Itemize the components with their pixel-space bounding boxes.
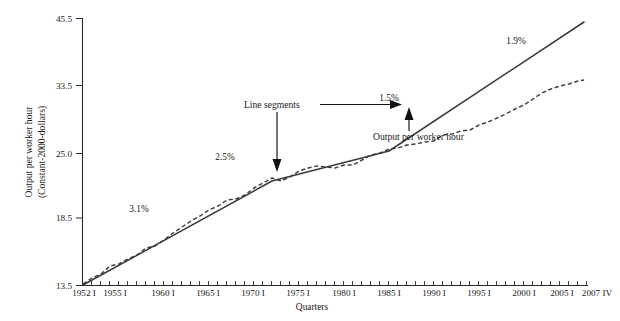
growth-label-2-5: 2.5%	[215, 152, 235, 162]
x-tick-label-2000: 2000 I	[512, 288, 536, 298]
series-output-per-worker-hour	[83, 80, 584, 284]
x-tick-label-1985: 1985 I	[377, 288, 401, 298]
y-tick-label-13-5: 13.5	[56, 281, 72, 291]
chart-svg: 13.5 18.5 25.0 33.5 45.5 Output per work…	[0, 0, 620, 321]
growth-label-1-9: 1.9%	[506, 36, 526, 46]
y-tick-label-33-5: 33.5	[56, 81, 72, 91]
x-tick-labels-group: 1952 I 1955 I 1960 I 1965 I 1970 I 1975 …	[72, 288, 612, 298]
y-axis-title-line1: Output per worker hour	[23, 106, 34, 198]
annotation-line-segments-label: Line segments	[244, 99, 300, 110]
x-tick-label-1965: 1965 I	[196, 288, 220, 298]
y-tick-label-45-5: 45.5	[56, 14, 72, 24]
x-tick-label-2007: 2007 IV	[582, 288, 613, 298]
growth-label-3-1: 3.1%	[129, 204, 149, 214]
x-axis-title: Quarters	[296, 302, 329, 312]
annotation-output-per-worker-hour: Output per worker hour	[373, 107, 465, 142]
axes-group	[83, 18, 589, 286]
x-tick-label-1970: 1970 I	[241, 288, 265, 298]
x-tick-label-2005: 2005 I	[550, 288, 574, 298]
arrow-up-icon	[405, 107, 414, 120]
growth-labels-group: 3.1% 2.5% 1.5% 1.9%	[129, 36, 526, 214]
x-tick-label-1955: 1955 I	[103, 288, 127, 298]
growth-label-1-5: 1.5%	[379, 93, 399, 103]
x-tick-label-1995: 1995 I	[467, 288, 491, 298]
x-tick-label-1990: 1990 I	[422, 288, 446, 298]
x-tick-label-1980: 1980 I	[332, 288, 356, 298]
x-tick-label-1975: 1975 I	[286, 288, 310, 298]
annotation-output-label: Output per worker hour	[373, 131, 465, 142]
y-axis-title: Output per worker hour (Constant-2000-do…	[23, 106, 48, 198]
trend-line-segments	[83, 22, 584, 285]
y-tick-label-25-0: 25.0	[56, 149, 72, 159]
arrow-down-icon	[273, 159, 282, 172]
x-tick-label-1960: 1960 I	[151, 288, 175, 298]
chart-figure: 13.5 18.5 25.0 33.5 45.5 Output per work…	[0, 0, 620, 321]
y-tick-label-18-5: 18.5	[56, 213, 72, 223]
x-minor-ticks-group	[83, 281, 587, 286]
y-axis-title-line2: (Constant-2000-dollars)	[36, 106, 48, 198]
y-ticks-group: 13.5 18.5 25.0 33.5 45.5	[56, 14, 83, 291]
x-tick-label-1952: 1952 I	[72, 288, 96, 298]
